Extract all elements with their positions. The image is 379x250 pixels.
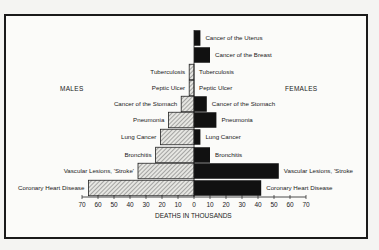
x-tick-label: 40 [126, 201, 134, 208]
male-bar [138, 163, 194, 179]
male-category-label: Peptic Ulcer [152, 84, 185, 91]
male-category-label: Coronary Heart Disease [18, 184, 85, 191]
x-tick-label: 20 [222, 201, 230, 208]
x-tick-label: 10 [174, 201, 182, 208]
x-tick-label: 70 [302, 201, 310, 208]
x-tick-label: 50 [110, 201, 118, 208]
x-tick-label: 10 [206, 201, 214, 208]
male-bar [156, 147, 194, 163]
male-category-label: Pneumonia [133, 116, 165, 123]
male-category-label: Vascular Lesions, 'Stroke' [64, 167, 134, 174]
female-bar [194, 147, 210, 163]
female-bar [194, 30, 200, 46]
female-bar [194, 96, 207, 112]
pyramid-chart: 70605040302010010203040506070 Cancer of … [0, 0, 379, 250]
x-tick-label: 30 [142, 201, 150, 208]
female-category-label: Pneumonia [221, 116, 253, 123]
x-tick-label: 20 [158, 201, 166, 208]
male-bar [160, 129, 194, 145]
male-category-label: Cancer of the Stomach [114, 100, 178, 107]
female-bar [194, 47, 210, 63]
females-legend-label: FEMALES [285, 85, 318, 92]
female-category-label: Peptic Ulcer [199, 84, 232, 91]
x-tick-label: 0 [192, 201, 196, 208]
male-bar [88, 180, 194, 196]
female-category-label: Cancer of the Stomach [212, 100, 276, 107]
x-tick-label: 60 [94, 201, 102, 208]
x-tick-label: 70 [78, 201, 86, 208]
male-category-label: Lung Cancer [121, 133, 156, 140]
female-bar [194, 112, 216, 128]
female-category-label: Tuberculosis [199, 68, 234, 75]
male-bar [189, 64, 194, 80]
female-category-label: Lung Cancer [205, 133, 240, 140]
x-tick-label: 40 [254, 201, 262, 208]
male-category-label: Tuberculosis [150, 68, 185, 75]
x-axis-title: DEATHS IN THOUSANDS [155, 212, 232, 219]
male-category-label: Bronchitis [124, 151, 151, 158]
male-bar [189, 80, 194, 96]
female-bar [194, 180, 261, 196]
female-category-label: Cancer of the Uterus [205, 34, 262, 41]
male-bar [181, 96, 194, 112]
female-category-label: Cancer of the Breast [215, 51, 272, 58]
female-bar [194, 163, 279, 179]
males-legend-label: MALES [60, 85, 84, 92]
x-tick-label: 50 [270, 201, 278, 208]
x-tick-label: 30 [238, 201, 246, 208]
female-bar [194, 129, 200, 145]
male-bar [168, 112, 194, 128]
female-category-label: Coronary Heart Disease [266, 184, 333, 191]
x-tick-label: 60 [286, 201, 294, 208]
female-category-label: Vascular Lesions, 'Stroke [284, 167, 354, 174]
female-category-label: Bronchitis [215, 151, 242, 158]
